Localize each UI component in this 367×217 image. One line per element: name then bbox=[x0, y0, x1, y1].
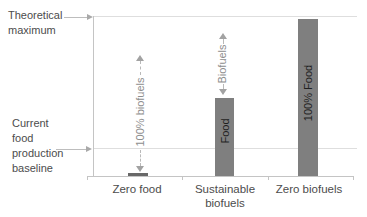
y-axis-line bbox=[93, 16, 94, 176]
x-axis-tick bbox=[353, 176, 354, 180]
food-baseline-connector-line bbox=[56, 149, 86, 150]
x-axis-tick bbox=[268, 176, 269, 180]
bar-zero-food bbox=[128, 173, 148, 176]
bar-label-food: Food bbox=[219, 118, 231, 143]
arrow-right-icon bbox=[87, 14, 93, 20]
food-baseline-label: Current food production baseline bbox=[12, 116, 72, 175]
category-label-sustainable-biofuels: Sustainable biofuels bbox=[190, 182, 260, 211]
x-axis-tick bbox=[182, 176, 183, 180]
arrow-down-icon bbox=[136, 166, 144, 172]
theoretical-maximum-connector-line bbox=[64, 17, 87, 18]
x-axis-line bbox=[87, 176, 354, 177]
dashed-arrow-stem bbox=[223, 39, 224, 44]
arrow-right-icon bbox=[86, 146, 92, 152]
bar-chart: Theoretical maximum Current food product… bbox=[0, 0, 367, 217]
arrow-down-icon bbox=[219, 89, 227, 95]
dashed-arrow-stem bbox=[140, 61, 141, 75]
bar-label-100-food: 100% Food bbox=[302, 65, 314, 121]
gridline-theoretical-maximum bbox=[93, 16, 357, 17]
annotation-biofuels: Biofuels bbox=[216, 44, 228, 83]
dashed-arrow-stem bbox=[140, 150, 141, 166]
x-axis-tick bbox=[87, 176, 88, 180]
category-label-zero-food: Zero food bbox=[97, 182, 177, 196]
theoretical-maximum-label: Theoretical maximum bbox=[8, 8, 80, 38]
category-label-zero-biofuels: Zero biofuels bbox=[264, 182, 354, 196]
annotation-100-biofuels: 100% biofuels bbox=[134, 77, 146, 146]
